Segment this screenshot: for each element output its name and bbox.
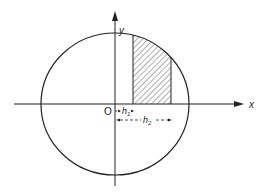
h2-dimension: h2 (116, 115, 172, 126)
x-axis-arrow-icon (234, 101, 244, 107)
y-axis-label: y (118, 25, 125, 36)
y-axis (112, 11, 118, 186)
y-axis-arrow-icon (112, 11, 118, 21)
h1-subscript: 1 (127, 111, 130, 117)
x-axis-label: x (248, 99, 255, 110)
h1-dimension: h1 (115, 106, 134, 117)
origin-label: O (104, 106, 112, 117)
circle-strip-diagram: x y O h1 h2 (0, 0, 261, 196)
svg-text:h2: h2 (143, 115, 152, 126)
svg-text:h1: h1 (122, 106, 130, 117)
x-axis (14, 101, 244, 107)
shaded-region (133, 20, 171, 104)
h2-subscript: 2 (147, 120, 152, 126)
